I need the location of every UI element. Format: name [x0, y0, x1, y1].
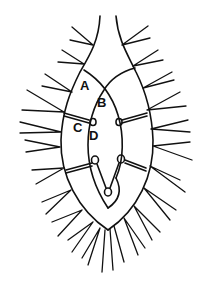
label-a: A — [80, 78, 90, 93]
suture-lower-left — [66, 163, 92, 173]
pore-lower-left — [92, 156, 99, 164]
suture-upper-right — [122, 113, 147, 123]
label-d: D — [89, 128, 98, 143]
outer-outline-right — [108, 16, 153, 230]
label-c: C — [73, 120, 83, 135]
pore-bottom — [105, 188, 112, 196]
label-b: B — [97, 95, 106, 110]
organism-diagram: A B C D — [0, 0, 211, 285]
pore-connector — [97, 163, 119, 188]
inner-arc-lower — [108, 178, 119, 208]
spines-left — [20, 27, 105, 272]
suture-lower-right — [125, 160, 146, 171]
outer-outline-left — [61, 16, 108, 230]
